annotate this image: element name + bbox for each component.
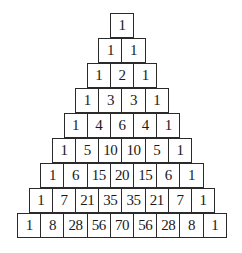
triangle-cell: 28 <box>156 213 180 238</box>
triangle-row-4: 14641 <box>64 113 181 138</box>
triangle-cell: 56 <box>133 213 157 238</box>
triangle-cell: 6 <box>110 113 134 138</box>
triangle-cell: 4 <box>87 113 111 138</box>
triangle-cell: 1 <box>133 63 157 88</box>
triangle-cell: 1 <box>179 163 203 188</box>
triangle-cell: 28 <box>63 213 87 238</box>
triangle-cell: 1 <box>40 163 64 188</box>
triangle-cell: 5 <box>145 138 169 163</box>
triangle-cell: 1 <box>156 113 180 138</box>
triangle-row-2: 121 <box>87 63 158 88</box>
triangle-cell: 8 <box>179 213 203 238</box>
triangle-row-6: 1615201561 <box>40 163 203 188</box>
triangle-row-0: 1 <box>110 13 134 38</box>
triangle-cell: 10 <box>98 138 122 163</box>
triangle-cell: 1 <box>98 38 122 63</box>
triangle-cell: 1 <box>145 88 169 113</box>
triangle-cell: 15 <box>87 163 111 188</box>
triangle-cell: 6 <box>156 163 180 188</box>
triangle-cell: 35 <box>98 188 122 213</box>
triangle-cell: 1 <box>203 213 227 238</box>
triangle-cell: 1 <box>52 138 76 163</box>
triangle-cell: 15 <box>133 163 157 188</box>
triangle-cell: 1 <box>87 63 111 88</box>
triangle-cell: 1 <box>168 138 192 163</box>
triangle-row-5: 15101051 <box>52 138 192 163</box>
triangle-cell: 7 <box>52 188 76 213</box>
triangle-row-1: 11 <box>98 38 145 63</box>
triangle-cell: 3 <box>121 88 145 113</box>
triangle-cell: 1 <box>191 188 215 213</box>
triangle-cell: 1 <box>110 13 134 38</box>
triangle-cell: 8 <box>40 213 64 238</box>
triangle-cell: 21 <box>145 188 169 213</box>
triangle-cell: 1 <box>17 213 41 238</box>
triangle-row-8: 18285670562881 <box>17 213 227 238</box>
triangle-cell: 6 <box>63 163 87 188</box>
triangle-cell: 70 <box>110 213 134 238</box>
triangle-cell: 1 <box>75 88 99 113</box>
triangle-cell: 2 <box>110 63 134 88</box>
triangle-cell: 4 <box>133 113 157 138</box>
triangle-cell: 56 <box>87 213 111 238</box>
triangle-cell: 7 <box>168 188 192 213</box>
triangle-cell: 1 <box>29 188 53 213</box>
triangle-cell: 1 <box>64 113 88 138</box>
triangle-cell: 5 <box>75 138 99 163</box>
triangle-cell: 10 <box>121 138 145 163</box>
triangle-cell: 1 <box>121 38 145 63</box>
pascal-triangle: 1111211331146411510105116152015611721353… <box>0 0 242 253</box>
triangle-row-3: 1331 <box>75 88 169 113</box>
triangle-row-7: 172135352171 <box>29 188 216 213</box>
triangle-cell: 35 <box>121 188 145 213</box>
triangle-cell: 20 <box>110 163 134 188</box>
triangle-cell: 21 <box>75 188 99 213</box>
triangle-cell: 3 <box>98 88 122 113</box>
